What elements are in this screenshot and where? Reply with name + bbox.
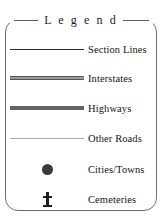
cities-towns-symbol-cell xyxy=(8,158,86,180)
cemeteries-symbol-cell xyxy=(8,188,86,210)
legend-row-highways: Highways xyxy=(0,97,163,119)
highways-symbol-cell xyxy=(8,97,86,119)
cemetery-cross-symbol xyxy=(42,192,53,207)
other-road-line-swatch xyxy=(10,138,84,139)
highway-line-swatch xyxy=(10,106,84,110)
legend-row-cemeteries: Cemeteries xyxy=(0,188,163,210)
legend-row-other-roads: Other Roads xyxy=(0,127,163,149)
legend-row-section-lines: Section Lines xyxy=(0,38,163,60)
legend-row-interstates: Interstates xyxy=(0,67,163,89)
interstates-label: Interstates xyxy=(88,67,160,89)
interstate-line-swatch xyxy=(10,76,84,80)
other-roads-label: Other Roads xyxy=(88,127,160,149)
cemetery-cross-horizontal xyxy=(43,196,52,198)
interstates-symbol-cell xyxy=(8,67,86,89)
city-dot-symbol xyxy=(42,164,53,175)
cemeteries-label: Cemeteries xyxy=(88,188,160,210)
cemetery-cross-base xyxy=(43,205,52,207)
section-lines-symbol-cell xyxy=(8,38,86,60)
cities-towns-label: Cities/Towns xyxy=(88,158,160,180)
map-legend-panel: L e g e n d Section Lines Interstates Hi… xyxy=(0,0,163,217)
legend-row-cities-towns: Cities/Towns xyxy=(0,158,163,180)
other-roads-symbol-cell xyxy=(8,127,86,149)
highways-label: Highways xyxy=(88,97,160,119)
legend-entry-list: Section Lines Interstates Highways Other… xyxy=(0,0,163,217)
section-line-swatch xyxy=(10,49,84,50)
section-lines-label: Section Lines xyxy=(88,38,160,60)
